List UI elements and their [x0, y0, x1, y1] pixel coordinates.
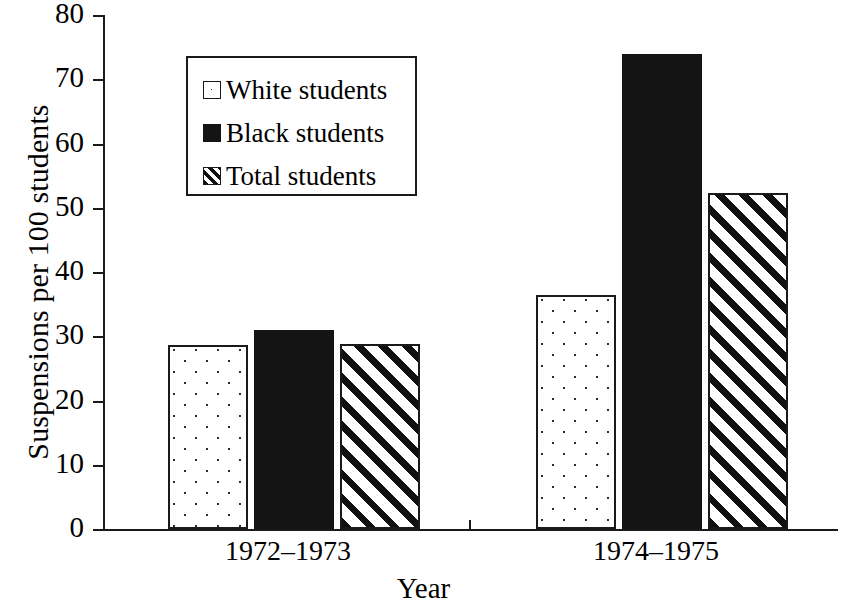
legend-item: Black students — [203, 114, 415, 152]
y-axis-tick: 10 — [93, 465, 104, 467]
y-axis-tick: 30 — [93, 336, 104, 338]
legend-item-label: White students — [226, 76, 387, 104]
legend-item: White students — [203, 71, 415, 109]
y-axis-tick: 70 — [93, 79, 104, 81]
x-axis-category-label: 1972–1973 — [168, 535, 408, 567]
bar — [254, 330, 334, 529]
legend-swatch-icon — [203, 167, 221, 185]
x-axis-title: Year — [0, 572, 847, 604]
legend-swatch-icon — [203, 81, 221, 99]
y-axis-tick: 50 — [93, 208, 104, 210]
legend-item-label: Black students — [226, 119, 384, 147]
y-axis-tick: 60 — [93, 144, 104, 146]
bar — [340, 344, 420, 529]
bar — [708, 193, 788, 529]
y-axis-tick-label: 70 — [14, 63, 84, 92]
x-axis-center-tick — [469, 520, 471, 530]
y-axis-tick-label: 50 — [14, 192, 84, 221]
y-axis-tick-label: 40 — [14, 256, 84, 285]
y-axis-tick-label: 80 — [14, 0, 84, 28]
y-axis-tick-label: 10 — [14, 449, 84, 478]
legend-swatch-icon — [203, 124, 221, 142]
legend-item-label: Total students — [226, 162, 376, 190]
y-axis-tick: 40 — [93, 272, 104, 274]
y-axis-tick: 20 — [93, 401, 104, 403]
bar — [622, 54, 702, 529]
legend: White studentsBlack studentsTotal studen… — [186, 56, 417, 196]
y-axis-tick: 0 — [93, 529, 104, 531]
bar — [536, 295, 616, 530]
legend-item: Total students — [203, 157, 415, 195]
y-axis-tick-label: 0 — [14, 513, 84, 542]
x-axis-category-label: 1974–1975 — [536, 535, 776, 567]
y-axis-tick: 80 — [93, 15, 104, 17]
bar-chart: Suspensions per 100 students 80706050403… — [0, 0, 847, 607]
y-axis-tick-label: 60 — [14, 128, 84, 157]
y-axis-tick-label: 30 — [14, 320, 84, 349]
y-axis-tick-label: 20 — [14, 385, 84, 414]
bar — [168, 345, 248, 529]
